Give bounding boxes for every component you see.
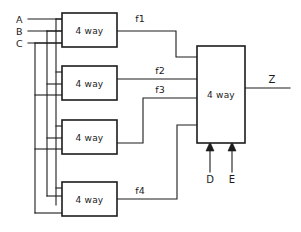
gate-2-label: 4 way: [76, 79, 104, 89]
circuit-diagram: 4 way 4 way 4 way 4 way 4 way A B C D E …: [0, 0, 301, 232]
input-label-e: E: [229, 174, 235, 185]
input-label-c: C: [16, 38, 23, 49]
input-label-b: B: [16, 26, 23, 37]
gate2-input-stubs: [35, 72, 62, 95]
gate-4-label: 4 way: [76, 195, 104, 205]
wire-d-input: [206, 142, 214, 172]
signal-label-f1: f1: [135, 13, 144, 24]
signal-label-f4: f4: [135, 185, 144, 196]
gate-3-label: 4 way: [76, 133, 104, 143]
signal-label-f2: f2: [155, 65, 164, 76]
wire-e-input: [228, 142, 236, 172]
gate4-input-stubs: [35, 188, 62, 213]
input-label-a: A: [16, 14, 23, 25]
signal-label-f3: f3: [155, 84, 164, 95]
input-label-d: D: [206, 174, 214, 185]
output-label-z: Z: [269, 74, 276, 85]
gate-1-label: 4 way: [76, 26, 104, 36]
wire-f3: [117, 98, 197, 143]
wire-f1: [117, 31, 197, 57]
gate-main-label: 4 way: [207, 90, 235, 100]
gate3-input-stubs: [35, 126, 62, 149]
wire-f4: [117, 125, 197, 199]
circuit-canvas: 4 way 4 way 4 way 4 way 4 way A B C D E …: [0, 0, 301, 232]
